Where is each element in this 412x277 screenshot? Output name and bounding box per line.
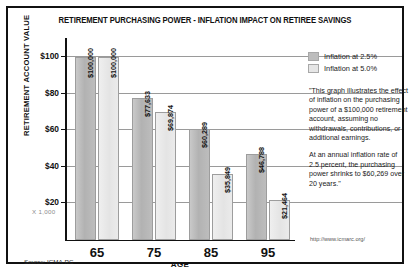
annotation-paragraph-2: At an annual inflation rate of 2.5 perce… xyxy=(309,151,409,189)
bar-value-label: $35,849 xyxy=(223,167,232,193)
y-axis-units-note: X 1,000 xyxy=(32,208,55,215)
bar[interactable]: $46,788 xyxy=(246,154,267,239)
y-axis-line xyxy=(65,38,67,241)
y-tick-label: $40 xyxy=(45,161,59,171)
legend-label: Inflation at 5.0% xyxy=(324,64,377,73)
bar-value-label: $21,464 xyxy=(280,193,289,219)
y-tick-label: $100 xyxy=(40,51,59,61)
bar-value-label: $60,289 xyxy=(200,122,209,148)
plot-area: $20$40$60$80$100 $100,000$100,00065$77,6… xyxy=(65,38,295,241)
source-note: Source: ICMA-RC xyxy=(24,258,74,265)
legend-swatch xyxy=(308,64,319,73)
legend-swatch xyxy=(308,52,319,61)
bar-value-label: $100,000 xyxy=(86,48,95,78)
bar-group: $77,633$69,87475 xyxy=(132,39,178,240)
legend-item[interactable]: Inflation at 5.0% xyxy=(308,64,412,73)
legend-item[interactable]: Inflation at 2.5% xyxy=(308,52,412,61)
bar[interactable]: $69,874 xyxy=(155,112,176,240)
bar[interactable]: $100,000 xyxy=(75,57,96,240)
y-axis-title: RETIREMENT ACCOUNT VALUE xyxy=(22,15,31,136)
x-axis-line xyxy=(65,240,295,242)
bar-value-label: $77,633 xyxy=(143,91,152,117)
x-axis-title: AGE xyxy=(65,260,295,269)
y-tick-label: $20 xyxy=(45,197,59,207)
x-tick-label: 95 xyxy=(261,245,275,260)
x-tick-label: 75 xyxy=(147,245,161,260)
bar-value-label: $100,000 xyxy=(109,48,118,78)
annotation-text: "This graph illustrates the effect of in… xyxy=(309,87,409,197)
chart-frame: RETIREMENT PURCHASING POWER - INFLATION … xyxy=(6,6,404,264)
annotation-paragraph-1: "This graph illustrates the effect of in… xyxy=(309,87,409,143)
bar-value-label: $46,788 xyxy=(257,147,266,173)
legend-label: Inflation at 2.5% xyxy=(324,52,377,61)
y-tick-label: $60 xyxy=(45,124,59,134)
bar[interactable]: $35,849 xyxy=(212,174,233,240)
chart-title: RETIREMENT PURCHASING POWER - INFLATION … xyxy=(20,16,390,25)
bar-group: $46,788$21,46495 xyxy=(246,39,292,240)
bar[interactable]: $77,633 xyxy=(132,98,153,240)
source-url[interactable]: http://www.icmarc.org/ xyxy=(310,236,365,242)
chart-legend: Inflation at 2.5%Inflation at 5.0% xyxy=(308,52,412,76)
y-tick-label: $80 xyxy=(45,88,59,98)
x-tick-label: 65 xyxy=(90,245,104,260)
bar-group: $60,289$35,84985 xyxy=(189,39,235,240)
x-tick-label: 85 xyxy=(204,245,218,260)
bar[interactable]: $100,000 xyxy=(98,57,119,240)
bar[interactable]: $60,289 xyxy=(189,129,210,239)
bar[interactable]: $21,464 xyxy=(269,200,290,239)
bar-value-label: $69,874 xyxy=(166,105,175,131)
bar-group: $100,000$100,00065 xyxy=(75,39,121,240)
